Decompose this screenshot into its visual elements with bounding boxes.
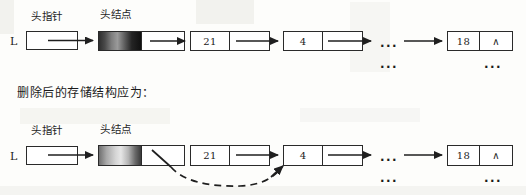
- node-21-data-text-top: 21: [203, 36, 216, 47]
- ellipsis-tail-top: ...: [484, 58, 502, 70]
- node-4-data-text-bottom: 4: [300, 150, 307, 161]
- node-21-next-cell-bottom: [230, 146, 269, 165]
- node-21-top: 21: [190, 31, 270, 51]
- node-4-data-cell-top: 4: [284, 32, 323, 50]
- head-node-bottom: [98, 145, 185, 166]
- node-18-data-text-bottom: 18: [457, 150, 470, 161]
- head-pointer-box-bottom: [26, 146, 78, 165]
- list-pointer-label-bottom: L: [10, 150, 17, 163]
- head-node-next-cell-bottom: [142, 146, 184, 165]
- ellipsis-lower-top: ...: [380, 58, 398, 70]
- node-4-data-cell-bottom: 4: [284, 146, 323, 165]
- ellipsis-lower-bottom: ...: [380, 172, 398, 184]
- node-21-next-cell-top: [230, 32, 269, 50]
- node-18-null-cell-bottom: ∧: [480, 146, 512, 165]
- head-node-label-bottom: 头结点: [100, 121, 132, 136]
- head-pointer-label-bottom: 头指针: [31, 122, 63, 137]
- ellipsis-upper-bottom: ...: [380, 151, 398, 163]
- head-node-data-cell-bottom: [99, 146, 142, 165]
- node-18-data-cell-top: 18: [448, 32, 480, 50]
- ellipsis-upper-top: ...: [380, 37, 398, 49]
- null-pointer-symbol-top: ∧: [492, 36, 500, 47]
- null-pointer-symbol-bottom: ∧: [492, 150, 500, 161]
- node-18-data-text-top: 18: [457, 36, 470, 47]
- node-4-next-cell-bottom: [323, 146, 362, 165]
- head-pointer-box-top: [26, 31, 78, 50]
- head-node-data-cell-top: [99, 32, 142, 50]
- node-21-bottom: 21: [190, 145, 270, 166]
- node-18-data-cell-bottom: 18: [448, 146, 480, 165]
- node-18-bottom: 18 ∧: [447, 145, 513, 166]
- node-18-top: 18 ∧: [447, 31, 513, 51]
- node-21-data-cell-bottom: 21: [191, 146, 230, 165]
- list-pointer-label-top: L: [10, 35, 17, 48]
- node-21-data-text-bottom: 21: [203, 150, 216, 161]
- head-pointer-label-top: 头指针: [31, 8, 63, 23]
- linked-list-deletion-figure: 头指针 头结点 L 21 4 ... ... 18 ∧ ...: [0, 0, 526, 195]
- ellipsis-tail-bottom: ...: [484, 172, 502, 184]
- head-node-top: [98, 31, 185, 51]
- node-21-data-cell-top: 21: [191, 32, 230, 50]
- node-18-null-cell-top: ∧: [480, 32, 512, 50]
- node-4-bottom: 4: [283, 145, 363, 166]
- head-node-label-top: 头结点: [100, 6, 132, 21]
- node-4-top: 4: [283, 31, 363, 51]
- figure-caption: 删除后的存储结构应为：: [17, 83, 155, 100]
- node-4-data-text-top: 4: [300, 36, 307, 47]
- head-node-next-cell-top: [142, 32, 184, 50]
- node-4-next-cell-top: [323, 32, 362, 50]
